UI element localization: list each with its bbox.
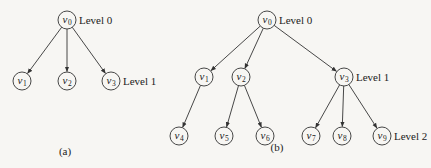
node-subscript: 4 [180, 134, 184, 143]
node-subscript: 0 [268, 18, 272, 27]
node-subscript: 7 [312, 134, 316, 143]
node-v8: v8 [333, 127, 351, 145]
node-subscript: 0 [68, 18, 72, 27]
node-label: v [338, 129, 343, 141]
edge-v0-v3-arrow [274, 25, 336, 71]
node-v2: v2 [232, 68, 250, 86]
tree-diagram-figure: v0Level 0v1v2v3Level 1(a)v0Level 0v1v2v3… [0, 0, 431, 168]
edge-v0-v1-arrow [28, 27, 62, 73]
node-subscript: 5 [225, 134, 229, 143]
subfigure-a: v0Level 0v1v2v3Level 1(a) [13, 11, 156, 158]
node-label: v [63, 74, 68, 86]
edge-v0-v3-arrow [72, 27, 105, 73]
edge-v2-v5-arrow [227, 86, 239, 127]
tree-diagram-svg: v0Level 0v1v2v3Level 1(a)v0Level 0v1v2v3… [0, 0, 431, 168]
edge-v3-v9-arrow [349, 85, 377, 128]
node-subscript: 6 [266, 134, 270, 143]
node-subscript: 9 [383, 134, 387, 143]
node-subscript: 1 [23, 79, 27, 88]
node-subscript: 8 [343, 134, 347, 143]
node-label: v [307, 129, 312, 141]
node-label: v [107, 74, 112, 86]
node-label: v [261, 129, 266, 141]
node-label: v [18, 74, 23, 86]
edge-v0-v1-arrow [211, 26, 260, 71]
node-v0: v0Level 0 [258, 11, 313, 29]
node-label: v [63, 13, 68, 25]
node-label: v [175, 129, 180, 141]
edge-v1-v4-arrow [183, 85, 201, 127]
node-subscript: 3 [112, 79, 116, 88]
level-label: Level 0 [79, 14, 113, 26]
node-subscript: 1 [205, 75, 209, 84]
node-v5: v5 [215, 127, 233, 145]
node-label: v [220, 129, 225, 141]
node-v9: v9Level 2 [373, 127, 427, 145]
level-label: Level 0 [279, 14, 313, 26]
edge-v2-v6-arrow [244, 85, 261, 127]
subfigure-caption: (b) [271, 141, 284, 154]
node-subscript: 3 [345, 75, 349, 84]
node-v0: v0Level 0 [58, 11, 113, 29]
edge-v3-v7-arrow [316, 85, 340, 128]
subfigure-caption: (a) [59, 145, 72, 158]
node-label: v [340, 70, 345, 82]
node-v1: v1 [13, 72, 31, 90]
level-label: Level 1 [356, 71, 389, 83]
edge-v3-v8-arrow [342, 86, 343, 127]
node-v3: v3Level 1 [102, 72, 156, 90]
level-label: Level 1 [123, 75, 156, 87]
node-v2: v2 [58, 72, 76, 90]
node-v3: v3Level 1 [335, 68, 389, 86]
edge-v0-v2-arrow [245, 28, 263, 68]
node-v1: v1 [195, 68, 213, 86]
node-v7: v7 [302, 127, 320, 145]
node-subscript: 2 [68, 79, 72, 88]
node-label: v [200, 70, 205, 82]
node-v4: v4 [170, 127, 188, 145]
subfigure-b: v0Level 0v1v2v3Level 1v4v5v6v7v8v9Level … [170, 11, 427, 154]
node-label: v [263, 13, 268, 25]
node-label: v [237, 70, 242, 82]
node-label: v [378, 129, 383, 141]
node-subscript: 2 [242, 75, 246, 84]
level-label: Level 2 [394, 130, 427, 142]
